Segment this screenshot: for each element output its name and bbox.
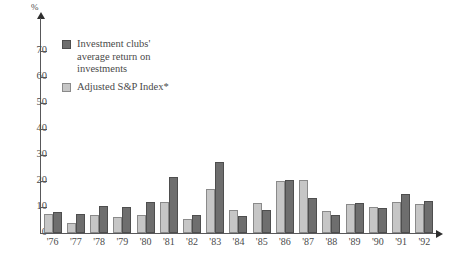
bar-investment-clubs [192,215,201,233]
bar-sp-index [206,189,215,233]
bar-sp-index [276,181,285,233]
bar-investment-clubs [99,206,108,233]
bar-sp-index [392,202,401,233]
bar-group [366,18,389,233]
bar-chart: % 010203040506070 '76'77'78'79'80'81'82'… [0,0,451,254]
y-axis-tick: 20 [0,181,47,182]
y-axis-tick: 40 [0,129,47,130]
bar-sp-index [44,214,53,234]
bar-investment-clubs [146,202,155,233]
bar-sp-index [253,203,262,233]
chart-legend: Investment clubs' average return on inve… [62,38,169,98]
bar-investment-clubs [169,177,178,233]
bar-group [390,18,413,233]
bar-sp-index [90,215,99,233]
bar-group [227,18,250,233]
bar-investment-clubs [401,194,410,233]
bar-investment-clubs [53,212,62,233]
legend-swatch-sp-index-icon [62,83,71,92]
y-axis-tick: 70 [0,51,47,52]
legend-item-sp-index: Adjusted S&P Index* [62,81,169,94]
bar-investment-clubs [122,207,131,233]
bar-investment-clubs [215,162,224,234]
bar-group [250,18,273,233]
legend-label-sp-index: Adjusted S&P Index* [77,81,169,94]
bar-sp-index [67,223,76,233]
bar-sp-index [160,202,169,233]
bar-group [41,18,64,233]
bar-sp-index [346,204,355,233]
bar-investment-clubs [355,203,364,233]
x-axis-tick-label: '92 [409,236,439,247]
x-axis-line [40,233,436,234]
bar-sp-index [113,217,122,233]
y-axis-tick-mark [40,233,47,234]
y-axis-unit-label: % [31,2,39,12]
bar-sp-index [229,210,238,233]
y-axis-tick: 60 [0,77,47,78]
bar-investment-clubs [424,201,433,234]
y-axis-tick: 0 [0,233,47,234]
bar-sp-index [183,219,192,233]
y-axis-tick: 50 [0,103,47,104]
bar-group [413,18,436,233]
bar-group [180,18,203,233]
bar-sp-index [299,180,308,233]
bar-investment-clubs [285,180,294,233]
bar-investment-clubs [331,215,340,233]
y-axis-tick: 10 [0,207,47,208]
y-axis-tick: 30 [0,155,47,156]
legend-swatch-investment-clubs-icon [62,40,71,49]
bar-investment-clubs [76,214,85,234]
bar-investment-clubs [378,208,387,233]
bar-group [320,18,343,233]
bar-group [204,18,227,233]
bar-investment-clubs [308,198,317,233]
legend-label-investment-clubs: Investment clubs' average return on inve… [77,38,150,76]
bar-investment-clubs [262,210,271,233]
legend-item-investment-clubs: Investment clubs' average return on inve… [62,38,169,76]
bar-sp-index [415,204,424,233]
bar-sp-index [369,207,378,233]
bar-group [343,18,366,233]
bar-investment-clubs [238,216,247,233]
bar-sp-index [137,215,146,233]
bar-sp-index [322,211,331,233]
bar-group [297,18,320,233]
bar-group [273,18,296,233]
